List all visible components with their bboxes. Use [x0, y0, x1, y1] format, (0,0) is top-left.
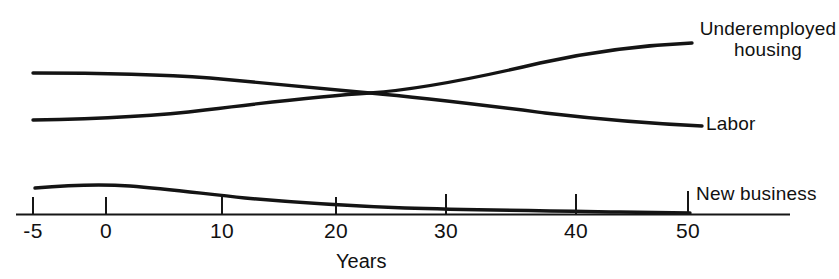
x-axis-tick-label-10: 10 [192, 219, 252, 243]
series-label-underemployed-housing-line1: Underemployed [700, 18, 837, 39]
series-label-underemployed-housing: Underemployed housing [697, 18, 839, 61]
x-axis-tick-label-40: 40 [546, 219, 606, 243]
x-axis-tick-label-20: 20 [306, 219, 366, 243]
series-label-new-business: New business [696, 183, 817, 204]
series-label-underemployed-housing-line2: housing [697, 39, 839, 60]
x-axis-tick-label-0: 0 [76, 219, 136, 243]
series-line-new-business [35, 185, 690, 213]
series-label-labor: Labor [706, 113, 756, 134]
x-axis-title: Years [336, 250, 386, 272]
series-line-underemployed-housing [33, 43, 692, 120]
x-axis-tick-label-50: 50 [658, 219, 718, 243]
x-axis-tick-label-30: 30 [416, 219, 476, 243]
chart-figure: Underemployed housing Labor New business… [0, 0, 839, 279]
x-axis-tick-label--5: -5 [3, 219, 63, 243]
